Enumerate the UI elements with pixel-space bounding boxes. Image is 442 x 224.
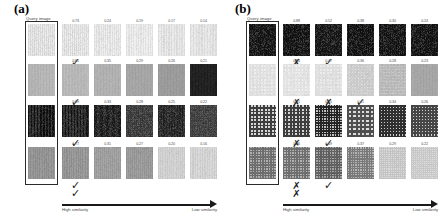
- result-thumbnail[interactable]: 0.21: [190, 64, 217, 96]
- result-thumbnail[interactable]: 0.17: [158, 24, 185, 56]
- query-thumbnail[interactable]: [249, 64, 276, 96]
- low-similarity-label: Low similarity: [413, 207, 438, 212]
- result-thumbnail-image: [411, 105, 438, 137]
- result-thumbnail-image: [283, 105, 310, 137]
- similarity-score-label: 0.30: [379, 19, 406, 23]
- result-thumbnail[interactable]: 0.29: [126, 64, 153, 96]
- query-thumbnail[interactable]: [249, 147, 276, 179]
- query-thumbnail[interactable]: [249, 105, 276, 137]
- result-thumbnail[interactable]: 0.88: [283, 24, 310, 56]
- thumbnail-grid: 0.88✗0.52✓0.380.300.240.84✗0.47✗0.36✓0.2…: [221, 0, 442, 224]
- result-thumbnail[interactable]: 0.29: [379, 147, 406, 179]
- result-thumbnail[interactable]: 0.33: [94, 105, 121, 137]
- result-thumbnail[interactable]: 0.25: [158, 105, 185, 137]
- result-thumbnail[interactable]: 0.52: [315, 24, 342, 56]
- similarity-score-label: 0.28: [379, 59, 406, 63]
- result-thumbnail-image: [190, 24, 217, 56]
- result-thumbnail[interactable]: 0.35: [94, 64, 121, 96]
- result-thumbnail[interactable]: 0.55: [315, 105, 342, 137]
- result-thumbnail[interactable]: 0.22: [190, 105, 217, 137]
- result-thumbnail[interactable]: 0.26: [411, 105, 438, 137]
- similarity-score-label: 0.16: [190, 142, 217, 146]
- similarity-score-label: 0.26: [158, 59, 185, 63]
- result-thumbnail-image: [94, 64, 121, 96]
- result-thumbnail-image: [94, 24, 121, 56]
- result-thumbnail[interactable]: 0.28: [379, 64, 406, 96]
- result-thumbnail[interactable]: 0.34: [379, 105, 406, 137]
- result-thumbnail[interactable]: 0.24: [411, 24, 438, 56]
- similarity-score-label: 0.84: [283, 59, 310, 63]
- result-thumbnail[interactable]: 0.14: [190, 24, 217, 56]
- result-thumbnail[interactable]: 0.77: [62, 147, 89, 179]
- result-thumbnail[interactable]: 0.20: [158, 147, 185, 179]
- result-thumbnail[interactable]: 0.86: [283, 147, 310, 179]
- result-thumbnail[interactable]: 0.19: [126, 24, 153, 56]
- similarity-score-label: 0.14: [190, 19, 217, 23]
- similarity-score-label: 0.52: [315, 19, 342, 23]
- similarity-score-label: 0.22: [411, 142, 438, 146]
- result-thumbnail-image: [315, 24, 342, 56]
- query-thumbnail[interactable]: [28, 64, 55, 96]
- result-thumbnail[interactable]: 0.16: [190, 147, 217, 179]
- similarity-score-label: 0.91: [283, 100, 310, 104]
- result-thumbnail[interactable]: 0.36: [347, 64, 374, 96]
- similarity-axis-arrow: High similarityLow similarity: [283, 199, 438, 213]
- similarity-score-label: 0.73: [62, 19, 89, 23]
- result-thumbnail-image: [315, 105, 342, 137]
- similarity-score-label: 0.81: [62, 59, 89, 63]
- similarity-score-label: 0.27: [126, 142, 153, 146]
- query-thumbnail[interactable]: [28, 147, 55, 179]
- result-thumbnail[interactable]: 0.37: [347, 147, 374, 179]
- result-thumbnail-image: [190, 105, 217, 137]
- panel-b: (b)Query image0.88✗0.52✓0.380.300.240.84…: [221, 0, 442, 224]
- result-thumbnail[interactable]: 0.26: [158, 64, 185, 96]
- result-thumbnail-image: [158, 24, 185, 56]
- similarity-score-label: 0.41: [347, 100, 374, 104]
- similarity-score-label: 0.77: [62, 142, 89, 146]
- result-thumbnail[interactable]: 0.24: [94, 24, 121, 56]
- retrieval-results-figure: (a)Query image0.73✓0.240.190.170.140.81✓…: [0, 0, 442, 224]
- similarity-score-label: 0.29: [379, 142, 406, 146]
- similarity-score-label: 0.36: [347, 59, 374, 63]
- result-thumbnail-image: [190, 147, 217, 179]
- result-thumbnail[interactable]: 0.30: [379, 24, 406, 56]
- similarity-score-label: 0.88: [283, 19, 310, 23]
- similarity-score-label: 0.26: [411, 100, 438, 104]
- result-thumbnail[interactable]: 0.31: [94, 147, 121, 179]
- query-thumbnail[interactable]: [28, 105, 55, 137]
- thumbnail-grid: 0.73✓0.240.190.170.140.81✓0.350.290.260.…: [0, 0, 221, 224]
- result-thumbnail-image: [126, 105, 153, 137]
- result-thumbnail[interactable]: 0.22: [411, 147, 438, 179]
- result-thumbnail[interactable]: 0.69: [62, 105, 89, 137]
- result-thumbnail-image: [379, 147, 406, 179]
- result-thumbnail-image: [94, 147, 121, 179]
- result-thumbnail[interactable]: 0.41: [347, 105, 374, 137]
- result-thumbnail[interactable]: 0.47: [315, 64, 342, 96]
- query-thumbnail[interactable]: [28, 24, 55, 56]
- result-thumbnail[interactable]: 0.81: [62, 64, 89, 96]
- result-thumbnail[interactable]: 0.91: [283, 105, 310, 137]
- result-thumbnail[interactable]: 0.73: [62, 24, 89, 56]
- result-thumbnail-image: [379, 24, 406, 56]
- result-thumbnail[interactable]: 0.23: [411, 64, 438, 96]
- arrow-line: [62, 204, 210, 206]
- query-thumbnail[interactable]: [249, 24, 276, 56]
- similarity-score-label: 0.20: [158, 142, 185, 146]
- similarity-score-label: 0.28: [126, 100, 153, 104]
- result-thumbnail[interactable]: 0.84: [283, 64, 310, 96]
- result-thumbnail[interactable]: 0.49: [315, 147, 342, 179]
- result-thumbnail-image: [94, 105, 121, 137]
- similarity-score-label: 0.25: [158, 100, 185, 104]
- similarity-axis-arrow: High similarityLow similarity: [62, 199, 217, 213]
- similarity-score-label: 0.24: [411, 19, 438, 23]
- result-thumbnail[interactable]: 0.27: [126, 147, 153, 179]
- high-similarity-label: High similarity: [283, 207, 309, 212]
- result-thumbnail[interactable]: 0.28: [126, 105, 153, 137]
- result-thumbnail[interactable]: 0.38: [347, 24, 374, 56]
- result-thumbnail-image: [126, 64, 153, 96]
- result-thumbnail-image: [347, 64, 374, 96]
- similarity-score-label: 0.35: [94, 59, 121, 63]
- result-thumbnail-image: [62, 105, 89, 137]
- result-thumbnail-image: [62, 24, 89, 56]
- panel-a: (a)Query image0.73✓0.240.190.170.140.81✓…: [0, 0, 221, 224]
